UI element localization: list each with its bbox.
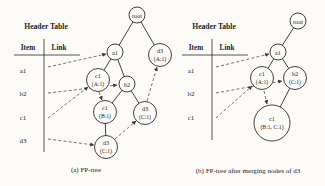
caption-a: (a) FP-tree: [71, 166, 101, 174]
node-label-c1-B1: c1: [102, 104, 108, 111]
tree-nodes-left: root a1 d3 (A:1) c1 (A:1) b2 c1 (B:1) d3…: [87, 7, 172, 159]
node-label-d3-C1-bottom: d3: [103, 139, 109, 146]
tree-node-c1-B1C1: [254, 105, 290, 141]
node-label-c1-A1: c1: [95, 72, 101, 79]
node-count-c1-A1: (A:1): [256, 79, 268, 86]
header-item-b2: b2: [20, 90, 28, 98]
node-label-b2-C1: b2: [292, 70, 298, 77]
link-arrow-d3: [48, 139, 94, 145]
column-header-link: Link: [52, 44, 67, 52]
node-label-c1-A1: c1: [259, 70, 265, 77]
node-count-c1-A1: (A:1): [92, 81, 104, 88]
node-label-d3-C1-right: d3: [142, 105, 148, 112]
panel-fp-tree-merged: Header Table Item Link a1 b2 c1 root: [182, 13, 307, 175]
link-arrow-a1: [48, 54, 106, 67]
link-arrow-c1: [216, 86, 252, 118]
caption-b: (b) FP-tree after merging nodes of d3: [196, 167, 301, 175]
header-table-left: Header Table Item Link a1 b2 c1 d3: [14, 22, 80, 152]
node-count-b2-C1: (C:1): [289, 79, 301, 86]
panel-fp-tree: Header Table Item Link a1 b2 c1 d3: [14, 7, 172, 174]
nodelink-d3right-d3A1: [147, 67, 157, 101]
node-label-d3-A1: d3: [157, 47, 163, 54]
node-count-c1-B1: (B:1): [99, 113, 111, 120]
column-header-item: Item: [21, 44, 35, 52]
nodelink-d3bottom-d3right: [115, 121, 136, 139]
node-label-c1-B1C1: c1: [269, 115, 275, 122]
nodelink-c1A1-c1B1C1: [264, 91, 267, 104]
fp-tree-figure: Header Table Item Link a1 b2 c1 d3: [0, 0, 325, 186]
header-table-right: Header Table Item Link a1 b2 c1: [182, 22, 248, 140]
tree-nodes-right: root a1 c1 (A:1) b2 (C:1) c1 (B:1, C:1): [251, 13, 307, 141]
header-table-title: Header Table: [192, 22, 236, 31]
node-count-d3-A1: (A:1): [154, 56, 166, 63]
header-item-c1: c1: [20, 114, 27, 122]
node-links-left: [48, 54, 157, 145]
header-item-a1: a1: [20, 67, 27, 75]
node-label-b2: b2: [124, 81, 130, 88]
header-table-title: Header Table: [24, 22, 68, 31]
node-label-root: root: [132, 12, 142, 19]
node-count-d3-C1-right: (C:1): [139, 114, 151, 121]
nodelink-c1A1-c1B1: [99, 92, 102, 100]
node-count-d3-C1-bottom: (C:1): [100, 148, 112, 155]
header-item-b2: b2: [188, 90, 196, 98]
header-item-a1: a1: [188, 67, 195, 75]
column-header-link: Link: [220, 44, 235, 52]
node-label-root: root: [293, 18, 303, 25]
header-item-c1: c1: [188, 114, 195, 122]
node-count-c1-B1C1: (B:1, C:1): [260, 124, 283, 131]
node-label-a1: a1: [275, 49, 281, 56]
link-arrow-c1: [48, 87, 88, 118]
link-arrow-a1: [216, 54, 269, 67]
column-header-item: Item: [189, 44, 203, 52]
node-label-a1: a1: [112, 49, 118, 56]
header-item-d3: d3: [20, 137, 28, 145]
